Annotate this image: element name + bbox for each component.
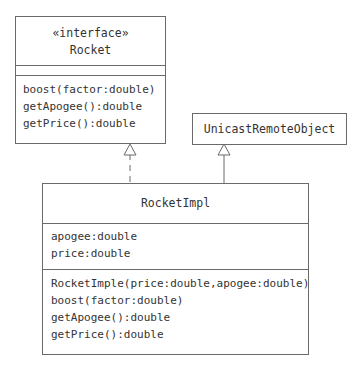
rocket-name-compartment: «interface» Rocket xyxy=(16,17,165,65)
realization-arrowhead-icon xyxy=(124,144,136,155)
rocket-method: getApogee():double xyxy=(23,98,165,115)
class-rocket-impl[interactable]: RocketImpl apogee:double price:double Ro… xyxy=(42,183,309,355)
rocket-methods-compartment: boost(factor:double) getApogee():double … xyxy=(16,75,165,143)
class-rocket[interactable]: «interface» Rocket boost(factor:double) … xyxy=(15,16,166,144)
rocketimpl-method: RocketImple(price:double,apogee:double) xyxy=(51,275,308,292)
rocketimpl-method: getApogee():double xyxy=(51,309,308,326)
realization-connector xyxy=(124,144,136,183)
rocket-method: getPrice():double xyxy=(23,115,165,132)
rocket-method: boost(factor:double) xyxy=(23,81,165,98)
rocket-stereotype: «interface» xyxy=(16,25,165,42)
class-unicast-remote-object[interactable]: UnicastRemoteObject xyxy=(192,113,347,145)
rocketimpl-methods-compartment: RocketImple(price:double,apogee:double) … xyxy=(43,269,308,354)
rocketimpl-attribute: apogee:double xyxy=(51,228,308,245)
unicast-class-name: UnicastRemoteObject xyxy=(193,114,346,144)
rocketimpl-attribute: price:double xyxy=(51,245,308,262)
rocketimpl-class-name: RocketImpl xyxy=(43,184,308,223)
rocketimpl-method: getPrice():double xyxy=(51,326,308,343)
rocketimpl-attributes-compartment: apogee:double price:double xyxy=(43,223,308,269)
generalization-arrowhead-icon xyxy=(218,144,230,155)
generalization-connector xyxy=(218,144,230,183)
rocket-attributes-compartment xyxy=(16,65,165,75)
rocketimpl-method: boost(factor:double) xyxy=(51,292,308,309)
rocket-class-name: Rocket xyxy=(16,42,165,59)
